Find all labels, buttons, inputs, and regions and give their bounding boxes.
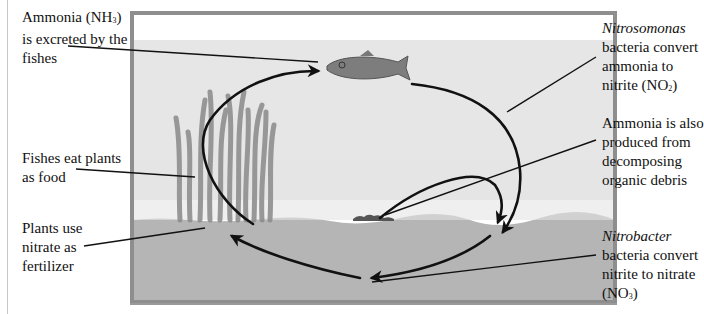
label-ammonia-excreted: Ammonia (NH3) is excreted by the fishes: [22, 8, 127, 68]
tank-air-space: [132, 14, 615, 40]
tank-sand: [132, 212, 615, 302]
label-plants-use-nitrate: Plants use nitrate as fertilizer: [22, 219, 82, 276]
tank-water-mid: [132, 160, 615, 220]
label-ammonia-from-debris: Ammonia is also produced from decomposin…: [602, 114, 704, 190]
label-nitrosomonas: Nitrosomonas bacteria convert ammonia to…: [602, 19, 698, 98]
label-nitrobacter: Nitrobacter bacteria convert nitrite to …: [602, 227, 698, 306]
label-fishes-eat-plants: Fishes eat plants as food: [22, 149, 121, 187]
